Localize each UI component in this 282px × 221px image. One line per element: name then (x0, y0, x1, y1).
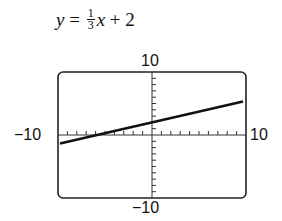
graph-window (0, 0, 282, 221)
axes (58, 72, 246, 198)
